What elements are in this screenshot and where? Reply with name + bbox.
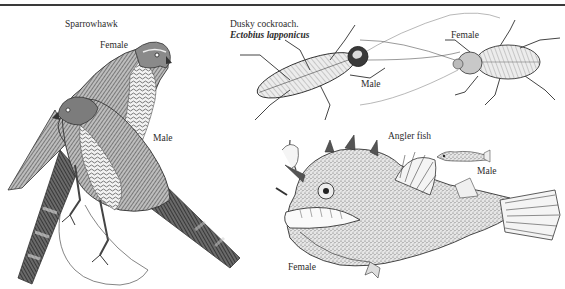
cockroach-female-label: Female — [451, 30, 479, 41]
sparrowhawk-male-label: Male — [153, 133, 173, 144]
angler-fish-male-label: Male — [477, 166, 497, 177]
cockroach-title: Dusky cockroach. — [230, 19, 299, 30]
sparrowhawk-title: Sparrowhawk — [65, 19, 118, 30]
illustration-canvas — [0, 0, 565, 289]
angler-fish-female-label: Female — [288, 262, 316, 273]
angler-fish-title: Angler fish — [388, 131, 431, 142]
sparrowhawk-female-label: Female — [100, 40, 128, 51]
sparrowhawk-illustration — [8, 42, 240, 285]
angler-fish-illustration — [276, 135, 560, 278]
cockroach-species: Ectobius lapponicus — [230, 30, 309, 41]
cockroach-male-label: Male — [361, 79, 381, 90]
